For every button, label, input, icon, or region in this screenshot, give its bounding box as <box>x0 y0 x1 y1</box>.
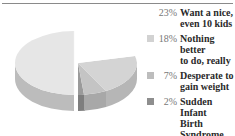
legend-percent: 2% <box>157 96 177 107</box>
legend-percent: 7% <box>157 70 177 81</box>
pie-chart <box>0 0 150 136</box>
legend: 23% Want a nice,even 10 kids 18% Nothing… <box>147 7 235 136</box>
legend-label: Desperate togain weight <box>180 70 234 92</box>
slice-jamal <box>15 31 74 111</box>
legend-item: 7% Desperate togain weight <box>147 70 235 92</box>
legend-swatch <box>147 98 154 105</box>
legend-item: 23% Want a nice,even 10 kids <box>147 7 235 29</box>
legend-swatch <box>147 9 154 16</box>
legend-label: Sudden InfantBirth Syndrome <box>180 96 235 136</box>
legend-swatch <box>147 35 154 42</box>
legend-item: 2% Sudden InfantBirth Syndrome <box>147 96 235 136</box>
legend-label: Want a nice,even 10 kids <box>180 7 233 29</box>
legend-percent: 18% <box>157 33 177 44</box>
legend-label: Nothing betterto do, really <box>180 33 235 66</box>
legend-percent: 23% <box>157 7 177 18</box>
legend-swatch <box>147 72 154 79</box>
legend-item: 18% Nothing betterto do, really <box>147 33 235 66</box>
